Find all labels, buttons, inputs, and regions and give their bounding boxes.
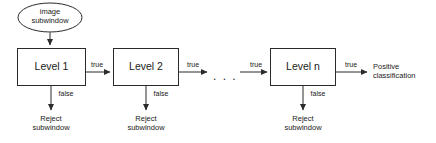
ellipsis-true-label: true [243,61,269,69]
level-1-reject-line-2: subwindow [20,124,82,133]
level-2-false-label: false [148,90,174,98]
level-n-label: Level n [270,60,336,72]
level-n-false-label: false [305,90,331,98]
input-ellipse-line-2: subwindow [18,17,82,26]
level-2-reject-line-2: subwindow [115,124,177,133]
level-n-reject-label: Reject subwindow [272,115,334,133]
level-1-false-label: false [53,90,79,98]
ellipsis-label: . . . [213,69,237,83]
level-n-reject-line-2: subwindow [272,124,334,133]
level-1-reject-label: Reject subwindow [20,115,82,133]
level-1-true-label: true [84,61,110,69]
level-2-label: Level 2 [113,60,179,72]
level-2-true-label: true [180,61,206,69]
output-line-2: classification [373,72,435,81]
level-n-true-label: true [338,61,364,69]
level-2-reject-label: Reject subwindow [115,115,177,133]
input-ellipse-label: image subwindow [18,8,82,26]
level-1-label: Level 1 [17,60,86,72]
diagram-canvas: image subwindow Level 1 true false Rejec… [0,0,436,143]
positive-classification-label: Positive classification [373,63,435,81]
